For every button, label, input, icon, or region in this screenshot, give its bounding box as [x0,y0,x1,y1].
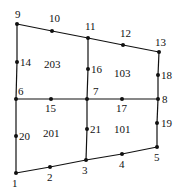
mesh-edge-9-10 [17,24,52,31]
mesh-edge-4-5 [122,147,157,154]
node-dot-17 [120,97,124,101]
node-dot-1 [14,171,18,175]
mesh-edge-3-4 [86,154,122,160]
mesh-svg: 123456789101112131415161718192021 201101… [0,0,184,194]
node-label-8: 8 [162,93,168,105]
node-dot-3 [84,158,88,162]
mesh-edge-2-3 [50,160,86,167]
node-label-15: 15 [45,102,57,114]
element-label-103: 103 [114,67,131,79]
node-label-12: 12 [120,27,131,39]
mesh-edge-11-12 [88,38,123,45]
node-label-5: 5 [154,151,160,163]
node-dot-14 [15,60,19,64]
node-dot-16 [86,67,90,71]
element-label-101: 101 [114,123,131,135]
node-label-13: 13 [155,36,167,48]
node-dot-19 [155,121,159,125]
mesh-diagram: 123456789101112131415161718192021 201101… [0,0,184,194]
node-dot-2 [48,165,52,169]
node-dot-4 [120,152,124,156]
node-label-9: 9 [15,8,21,20]
mesh-edge-3-21 [86,129,87,160]
node-label-7: 7 [93,85,99,97]
node-label-16: 16 [91,63,103,75]
node-label-4: 4 [119,158,125,170]
node-dot-10 [50,29,54,33]
node-label-6: 6 [18,85,24,97]
node-label-19: 19 [161,117,173,129]
node-dot-9 [15,22,19,26]
element-label-201: 201 [43,127,60,139]
mesh-edge-12-13 [123,45,159,52]
node-label-2: 2 [47,171,53,183]
mesh-edge-19-8 [157,99,158,123]
node-dot-8 [156,97,160,101]
node-dot-15 [49,97,53,101]
node-label-3: 3 [82,164,88,176]
node-dot-11 [86,36,90,40]
element-label-203: 203 [44,58,61,70]
mesh-edge-7-16 [87,69,88,99]
node-dot-20 [14,134,18,138]
node-dot-18 [156,73,160,77]
node-dot-21 [85,127,89,131]
mesh-edge-10-11 [52,31,88,38]
node-label-21: 21 [90,123,101,135]
node-label-17: 17 [116,102,128,114]
mesh-edge-1-2 [16,167,50,173]
mesh-edge-6-14 [16,62,17,99]
node-dot-6 [14,97,18,101]
node-dot-12 [121,43,125,47]
node-dot-5 [155,145,159,149]
mesh-edge-18-13 [158,52,159,75]
node-label-14: 14 [20,56,32,68]
node-label-18: 18 [161,69,173,81]
node-label-10: 10 [49,12,61,24]
node-label-11: 11 [85,20,96,32]
node-label-20: 20 [19,130,31,142]
node-dot-13 [157,50,161,54]
node-dot-7 [85,97,89,101]
node-label-1: 1 [12,177,18,189]
